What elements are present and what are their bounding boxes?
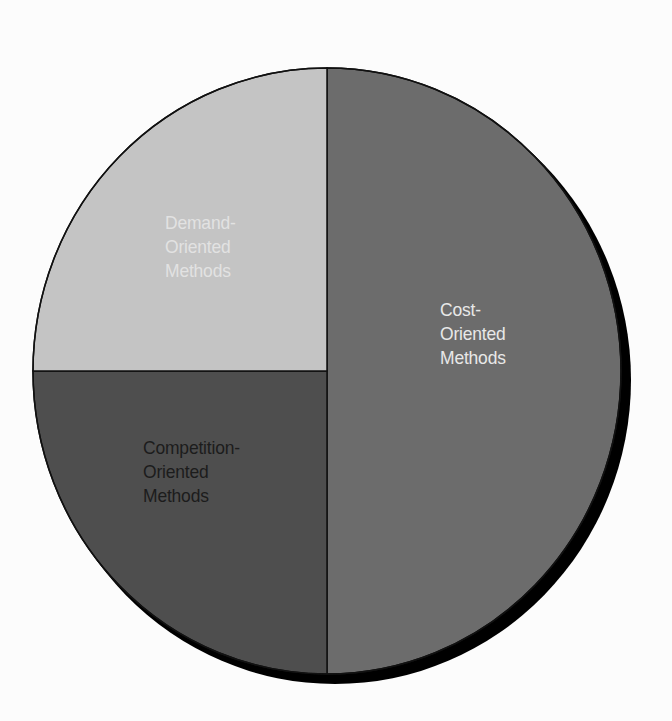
label-cost: Cost- Oriented Methods — [440, 298, 506, 370]
slice-demand — [33, 371, 327, 674]
label-cost-line2: Oriented — [440, 322, 506, 346]
label-demand-line3: Methods — [165, 259, 236, 283]
label-demand: Demand- Oriented Methods — [165, 211, 236, 283]
pie-slices — [33, 68, 621, 674]
label-competition: Competition- Oriented Methods — [143, 436, 240, 508]
label-demand-line1: Demand- — [165, 211, 236, 235]
label-demand-line2: Oriented — [165, 235, 236, 259]
pie-chart — [0, 0, 672, 721]
slice-cost — [327, 68, 621, 674]
label-competition-line2: Oriented — [143, 460, 240, 484]
label-cost-line1: Cost- — [440, 298, 506, 322]
label-cost-line3: Methods — [440, 346, 506, 370]
label-competition-line1: Competition- — [143, 436, 240, 460]
label-competition-line3: Methods — [143, 484, 240, 508]
